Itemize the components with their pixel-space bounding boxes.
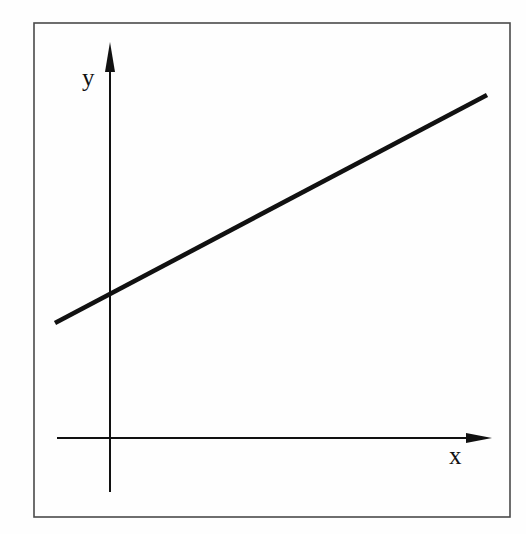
y-axis-arrowhead-icon (105, 42, 115, 72)
figure-container: y x (0, 0, 526, 534)
data-series-linear-function (55, 95, 487, 323)
y-axis-label: y (82, 64, 95, 91)
x-axis-arrowhead-icon (466, 433, 492, 443)
figure-frame (34, 23, 510, 517)
linear-function-graph: y x (0, 0, 526, 534)
x-axis-label: x (449, 442, 462, 469)
